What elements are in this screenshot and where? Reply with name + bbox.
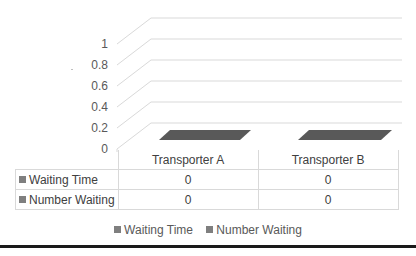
column-header: Transporter B xyxy=(258,150,398,170)
legend-swatch-icon xyxy=(19,176,26,183)
y-axis: 1 0.8 0.6 0.4 0.2 0 xyxy=(66,0,108,160)
legend-item-number-waiting: Number Waiting xyxy=(206,223,302,237)
y-tick: 1 xyxy=(68,37,108,51)
data-table: Transporter A Transporter B Waiting Time… xyxy=(15,150,399,210)
legend-swatch-icon xyxy=(206,226,213,233)
table-corner xyxy=(16,150,119,170)
3d-gridlines xyxy=(0,0,416,160)
table-row: Waiting Time 0 0 xyxy=(16,170,399,190)
y-tick: 0.6 xyxy=(68,79,108,93)
bottom-divider xyxy=(0,245,416,248)
y-tick: 0.2 xyxy=(68,121,108,135)
legend-label: Waiting Time xyxy=(124,223,193,237)
legend-item-waiting-time: Waiting Time xyxy=(114,223,193,237)
stray-mark xyxy=(71,69,73,70)
table-cell: 0 xyxy=(118,170,258,190)
row-label: Waiting Time xyxy=(16,170,119,190)
row-label-text: Number Waiting xyxy=(29,193,115,207)
bar-transporter-a xyxy=(159,130,251,140)
row-label-text: Waiting Time xyxy=(29,173,98,187)
table-cell: 0 xyxy=(258,170,398,190)
table-cell: 0 xyxy=(118,190,258,210)
y-tick: 0.8 xyxy=(68,58,108,72)
bar-transporter-b xyxy=(298,130,392,140)
y-tick: 0.4 xyxy=(68,100,108,114)
legend: Waiting Time Number Waiting xyxy=(0,223,416,237)
table-row: Number Waiting 0 0 xyxy=(16,190,399,210)
legend-label: Number Waiting xyxy=(216,223,302,237)
chart-area: 1 0.8 0.6 0.4 0.2 0 Transporter A Transp… xyxy=(0,0,416,256)
column-header: Transporter A xyxy=(118,150,258,170)
table-header-row: Transporter A Transporter B xyxy=(16,150,399,170)
legend-swatch-icon xyxy=(114,226,121,233)
row-label: Number Waiting xyxy=(16,190,119,210)
legend-swatch-icon xyxy=(19,196,26,203)
table-cell: 0 xyxy=(258,190,398,210)
